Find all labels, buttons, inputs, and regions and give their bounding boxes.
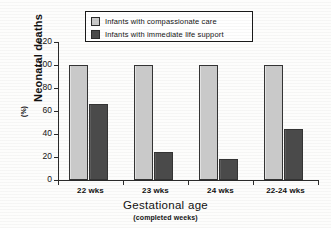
x-axis-tick <box>188 181 189 185</box>
y-axis-tick <box>54 134 58 135</box>
y-axis-tick-label: 60 <box>20 105 52 115</box>
y-axis-tick-label: 20 <box>20 151 52 161</box>
y-axis-tick <box>54 65 58 66</box>
x-axis-category-label: 22 wks <box>58 186 123 195</box>
y-axis-tick-label: 80 <box>20 82 52 92</box>
legend-label-compassionate-care: Infants with compassionate care <box>105 17 217 26</box>
x-axis-tick <box>318 181 319 185</box>
chart-legend: Infants with compassionate care Infants … <box>85 11 253 42</box>
legend-item-life-support: Infants with immediate life support <box>91 28 248 40</box>
y-axis-tick <box>54 111 58 112</box>
bar-compassionate-care <box>199 65 218 180</box>
x-axis-tick <box>123 181 124 185</box>
y-axis-tick <box>54 42 58 43</box>
x-axis-title: Gestational age <box>0 199 331 211</box>
x-axis-category-label: 24 wks <box>188 186 253 195</box>
y-axis-tick-label: 0 <box>20 174 52 184</box>
legend-swatch-dark-icon <box>91 30 100 39</box>
y-axis-tick-label: 120 <box>20 36 52 46</box>
bar-compassionate-care <box>69 65 88 180</box>
x-axis-category-label: 23 wks <box>123 186 188 195</box>
y-axis-tick-label: 40 <box>20 128 52 138</box>
legend-label-life-support: Infants with immediate life support <box>105 30 224 39</box>
y-axis-tick <box>54 88 58 89</box>
bar-compassionate-care <box>264 65 283 180</box>
y-axis-tick-label: 100 <box>20 59 52 69</box>
bar-life-support <box>89 104 108 180</box>
bar-compassionate-care <box>134 65 153 180</box>
y-axis-tick <box>54 157 58 158</box>
x-axis-tick <box>58 181 59 185</box>
x-axis-category-label: 22-24 wks <box>253 186 318 195</box>
bar-life-support <box>284 129 303 180</box>
chart-figure: Infants with compassionate care Infants … <box>0 0 331 228</box>
bar-life-support <box>219 159 238 180</box>
x-axis-subtitle: (completed weeks) <box>0 214 331 221</box>
x-axis-tick <box>253 181 254 185</box>
legend-swatch-light-icon <box>91 17 100 26</box>
legend-item-compassionate-care: Infants with compassionate care <box>91 15 248 27</box>
bar-life-support <box>154 152 173 180</box>
